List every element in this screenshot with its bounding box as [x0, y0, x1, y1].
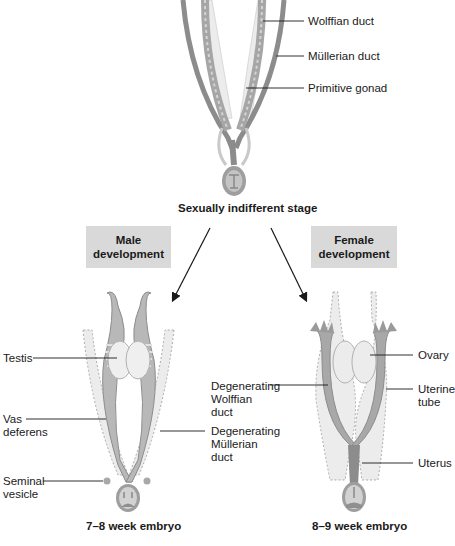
label-mullerian-duct: Müllerian duct [308, 50, 380, 63]
caption-indifferent-stage: Sexually indifferent stage [178, 202, 317, 214]
female-box-line2: development [319, 247, 390, 261]
female-reproductive-tract [310, 292, 397, 512]
label-degenerating-mullerian-3: duct [211, 451, 233, 464]
indifferent-reproductive-tract [183, 0, 284, 196]
male-box-line1: Male [93, 233, 164, 247]
male-reproductive-tract [83, 292, 174, 512]
label-degenerating-wolffian-3: duct [211, 406, 233, 419]
arrow-to-male [173, 228, 210, 300]
label-seminal-vesicle-1: Seminal [3, 475, 45, 488]
label-uterus: Uterus [418, 457, 452, 470]
label-degenerating-mullerian-1: Degenerating [211, 425, 280, 438]
label-testis: Testis [3, 352, 32, 365]
label-degenerating-wolffian-2: Wolffian [211, 393, 252, 406]
caption-male-embryo: 7–8 week embryo [86, 520, 181, 532]
male-box-line2: development [93, 247, 164, 261]
arrow-to-female [271, 228, 306, 300]
label-ovary: Ovary [418, 349, 449, 362]
label-seminal-vesicle-2: vesicle [3, 488, 38, 501]
label-uterine-tube-1: Uterine [418, 383, 455, 396]
label-degenerating-mullerian-2: Müllerian [211, 438, 258, 451]
label-degenerating-wolffian-1: Degenerating [211, 380, 280, 393]
label-primitive-gonad: Primitive gonad [308, 82, 387, 95]
label-vas-deferens-2: deferens [3, 426, 48, 439]
label-uterine-tube-2: tube [418, 396, 440, 409]
caption-female-embryo: 8–9 week embryo [312, 520, 407, 532]
label-vas-deferens-1: Vas [3, 413, 22, 426]
female-development-box: Femaledevelopment [311, 226, 397, 268]
label-wolffian-duct: Wolffian duct [308, 15, 374, 28]
female-box-line1: Female [319, 233, 390, 247]
male-development-box: Maledevelopment [86, 226, 171, 268]
